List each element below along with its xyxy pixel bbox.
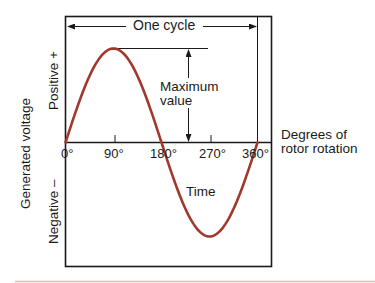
tick-label-360: 360° [242,146,269,161]
one-cycle-label: One cycle [133,18,195,33]
time-label: Time [186,184,216,199]
negative-label: Negative – [46,179,61,244]
tick-label-180: 180° [150,146,177,161]
tick-label-90: 90° [104,146,124,161]
x-axis-label-line1: Degrees of [281,127,347,142]
max-value-label-line2: value [160,93,192,108]
max-value-label-line1: Maximum [160,79,219,94]
positive-label: Positive + [46,51,61,110]
x-axis-label-line2: rotor rotation [281,141,358,156]
tick-label-0: 0° [61,146,73,161]
y-axis-label: Generated voltage [18,98,33,209]
plot-frame [66,17,272,267]
tick-label-270: 270° [199,146,226,161]
